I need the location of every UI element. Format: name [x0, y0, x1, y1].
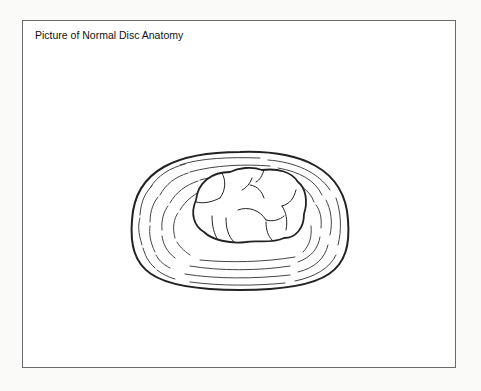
nucleus-pulposus — [193, 168, 306, 243]
nucleus-outline — [193, 168, 306, 243]
disc-illustration — [0, 0, 481, 391]
